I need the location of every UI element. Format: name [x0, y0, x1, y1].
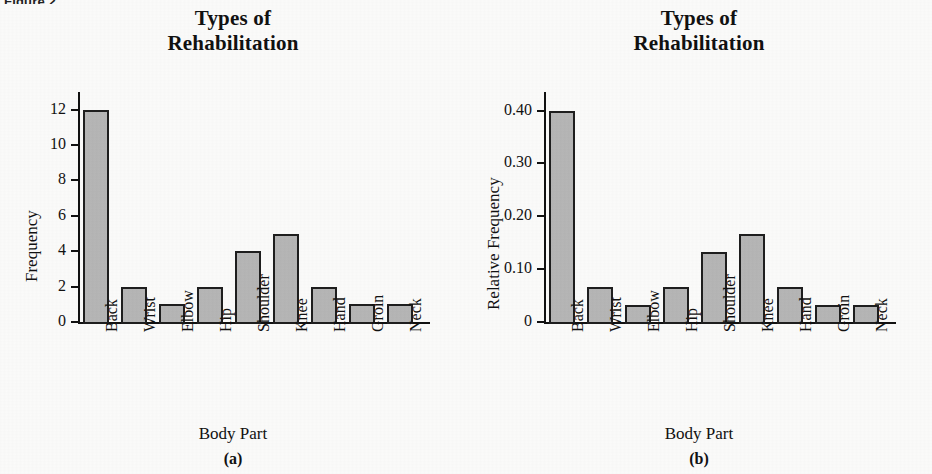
y-axis-tick-label: 0 [20, 312, 66, 330]
x-axis-category-label: Elbow [179, 290, 197, 332]
y-axis-tick [537, 268, 544, 270]
bar [83, 110, 109, 324]
panel-caption-b: (b) [466, 450, 932, 468]
y-axis-tick [537, 321, 544, 323]
y-axis-line [544, 92, 546, 324]
x-axis-category-label: Hip [217, 308, 235, 332]
x-axis-category-label: Back [103, 299, 121, 332]
x-axis-category-label: Back [569, 299, 587, 332]
y-axis-tick [71, 286, 78, 288]
y-axis-tick-label: 0.40 [486, 101, 532, 119]
y-axis-tick [71, 109, 78, 111]
y-axis-line [78, 92, 80, 324]
x-axis-category-label: Wrist [607, 297, 625, 332]
y-axis-tick [537, 215, 544, 217]
x-axis-category-label: Elbow [645, 290, 663, 332]
y-axis-tick [537, 162, 544, 164]
y-axis-tick [71, 144, 78, 146]
chart-panel-a: Types of Rehabilitation 024681012Frequen… [0, 0, 466, 474]
x-axis-category-label: Neck [407, 298, 425, 332]
plot-area-b: 00.100.200.300.40Relative FrequencyBackW… [466, 0, 932, 474]
y-axis-tick [71, 179, 78, 181]
x-axis-category-label: Groin [369, 295, 387, 332]
chart-panel-b: Types of Rehabilitation 00.100.200.300.4… [466, 0, 932, 474]
x-axis-category-label: Shoulder [721, 274, 739, 332]
plot-area-a: 024681012FrequencyBackWristElbowHipShoul… [0, 0, 466, 474]
figure-panels: Types of Rehabilitation 024681012Frequen… [0, 0, 932, 474]
y-axis-tick [71, 321, 78, 323]
y-axis-tick [71, 250, 78, 252]
bar [549, 111, 575, 324]
panel-caption-a: (a) [0, 450, 466, 468]
x-axis-category-label: Neck [873, 298, 891, 332]
y-axis-tick-label: 12 [20, 100, 66, 118]
x-axis-category-label: Hip [683, 308, 701, 332]
x-axis-label-b: Body Part [466, 424, 932, 444]
x-axis-category-label: Knee [759, 298, 777, 332]
x-axis-label-a: Body Part [0, 424, 466, 444]
x-axis-category-label: Shoulder [255, 274, 273, 332]
y-axis-title: Frequency [22, 210, 42, 282]
y-axis-tick [537, 110, 544, 112]
y-axis-tick-label: 10 [20, 135, 66, 153]
y-axis-tick-label: 0.30 [486, 153, 532, 171]
y-axis-title: Relative Frequency [484, 177, 504, 310]
x-axis-category-label: Hand [797, 297, 815, 332]
x-axis-category-label: Groin [835, 295, 853, 332]
y-axis-tick-label: 8 [20, 170, 66, 188]
x-axis-category-label: Hand [331, 297, 349, 332]
x-axis-category-label: Wrist [141, 297, 159, 332]
x-axis-category-label: Knee [293, 298, 311, 332]
y-axis-tick [71, 215, 78, 217]
y-axis-tick-label: 0 [486, 312, 532, 330]
